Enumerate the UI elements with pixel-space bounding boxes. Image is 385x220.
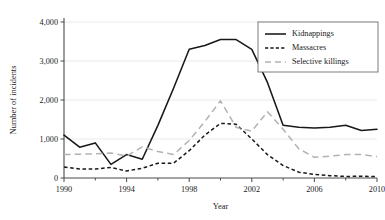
chart-canvas: 01,0002,0003,0004,000 199019941998200220… <box>0 0 385 220</box>
x-tick-label: 2006 <box>306 185 322 194</box>
x-tick-label: 1990 <box>56 185 72 194</box>
x-axis-ticks: 199019941998200220062010 <box>56 178 385 194</box>
x-tick-label: 2002 <box>244 185 260 194</box>
y-tick-label: 4,000 <box>40 18 58 27</box>
x-tick-label: 1994 <box>118 185 134 194</box>
y-axis-ticks: 01,0002,0003,0004,000 <box>40 18 64 183</box>
y-tick-label: 0 <box>54 174 58 183</box>
y-axis-title: Number of incidents <box>9 66 18 135</box>
y-tick-label: 1,000 <box>40 135 58 144</box>
series-line-massacres <box>64 123 377 176</box>
legend-label-massacres: Massacres <box>292 43 326 52</box>
series-line-selective-killings <box>64 101 377 158</box>
y-tick-label: 3,000 <box>40 57 58 66</box>
chart-legend: KidnappingsMassacresSelective killings <box>258 22 378 72</box>
line-chart: 01,0002,0003,0004,000 199019941998200220… <box>0 0 385 220</box>
x-axis-title: Year <box>213 202 229 211</box>
x-tick-label: 2010 <box>369 185 385 194</box>
legend-label-selective-killings: Selective killings <box>292 57 349 66</box>
legend-label-kidnappings: Kidnappings <box>292 29 334 38</box>
y-tick-label: 2,000 <box>40 96 58 105</box>
x-tick-label: 1998 <box>181 185 197 194</box>
